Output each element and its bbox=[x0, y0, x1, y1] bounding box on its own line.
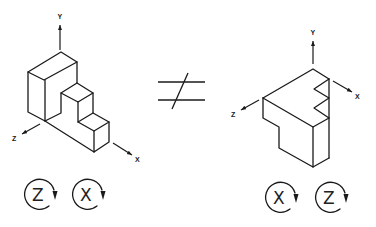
left-z-axis bbox=[22, 124, 40, 134]
left-x-label: X bbox=[135, 156, 140, 163]
right-x-axis bbox=[333, 81, 352, 92]
not-equal-icon bbox=[158, 73, 205, 109]
left-step1-top bbox=[61, 83, 93, 102]
right-zigzag bbox=[314, 79, 329, 118]
rotation-label: Z bbox=[323, 188, 335, 208]
rotation-icon-x-right: X bbox=[266, 182, 299, 212]
rotation-label: Z bbox=[32, 185, 44, 205]
left-step2-top bbox=[78, 113, 109, 131]
left-y-label: Y bbox=[58, 13, 63, 20]
rotation-icon-z-left: Z bbox=[25, 179, 58, 209]
right-z-label: Z bbox=[231, 111, 236, 118]
right-top-face bbox=[263, 69, 329, 98]
right-y-label: Y bbox=[311, 29, 316, 36]
right-x-label: X bbox=[355, 93, 360, 100]
right-stepped-profile bbox=[263, 98, 329, 167]
left-tall-block-top bbox=[28, 52, 77, 80]
right-top-diagonal bbox=[263, 98, 329, 127]
rotation-icon-x-left: X bbox=[73, 179, 106, 209]
right-object: Y X Z bbox=[231, 29, 360, 167]
rotation-icon-z-right: Z bbox=[316, 182, 349, 212]
left-object: Y Z X bbox=[12, 13, 140, 163]
rotation-label: X bbox=[80, 185, 92, 205]
rotation-label: X bbox=[273, 188, 285, 208]
left-recess bbox=[45, 93, 61, 121]
left-z-label: Z bbox=[12, 135, 17, 142]
left-x-axis bbox=[113, 143, 132, 155]
left-bottom-edge bbox=[45, 121, 94, 152]
right-z-axis bbox=[241, 100, 259, 110]
